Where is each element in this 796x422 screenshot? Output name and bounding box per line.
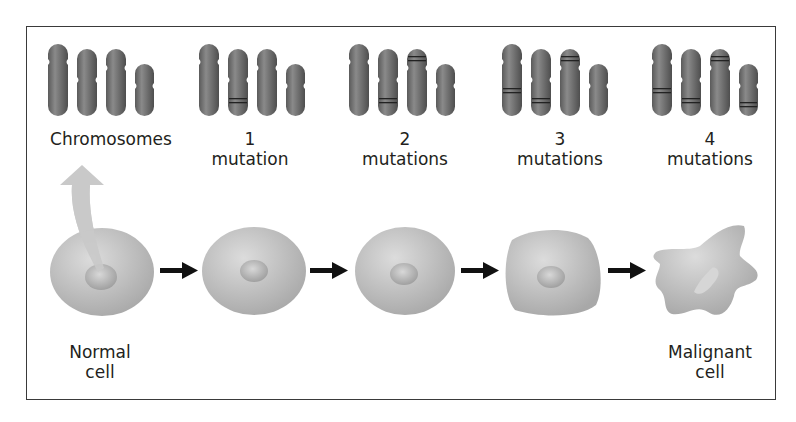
mutation-band (532, 102, 550, 103)
cell-stage-3 (506, 230, 601, 316)
chromosome (710, 49, 730, 116)
stage-label-chromosomes: Chromosomes (36, 129, 186, 149)
arrow-right-icon (461, 262, 499, 279)
chromosome-set (502, 44, 608, 116)
mutation-band (682, 102, 700, 103)
mutation-band (740, 106, 757, 107)
stage-label-4: 4mutations (650, 129, 770, 169)
mutation-band (561, 60, 579, 61)
chromosome (652, 44, 672, 116)
mutation-band (740, 102, 757, 103)
mutation-band (532, 98, 550, 99)
chromosome (48, 44, 68, 116)
mutation-band (408, 56, 426, 57)
mutation-band (379, 102, 397, 103)
chromosome (77, 49, 97, 116)
mutation-band (653, 88, 671, 89)
mutation-band (503, 88, 521, 89)
chromosome (560, 49, 580, 116)
chromosome (199, 44, 219, 116)
cell-stage-1 (202, 227, 306, 315)
chromosome (257, 49, 277, 116)
chromosome (228, 49, 248, 116)
cell-stage-2 (355, 227, 455, 315)
chromosome (589, 64, 608, 116)
chromosome (436, 64, 455, 116)
chromosome (502, 44, 522, 116)
malignant-cell-label: Malignantcell (650, 342, 770, 382)
mutation-band (408, 60, 426, 61)
mutation-band (379, 98, 397, 99)
chromosome-set (349, 44, 455, 116)
mutation-band (561, 56, 579, 57)
cell-normal (50, 185, 154, 316)
mutation-band (229, 102, 247, 103)
mutation-band (711, 60, 729, 61)
chromosome (681, 49, 701, 116)
mutation-band (229, 98, 247, 99)
mutation-band (503, 92, 521, 93)
chromosome-set (199, 44, 305, 116)
chromosome (106, 49, 126, 116)
chromosome (407, 49, 427, 116)
arrow-right-icon (310, 262, 348, 279)
normal-cell-label: Normalcell (50, 342, 150, 382)
chromosome (739, 64, 758, 116)
cell-malignant (653, 225, 757, 315)
chromosome-set (652, 44, 758, 116)
stage-label-1: 1mutation (200, 129, 300, 169)
arrow-right-icon (608, 262, 646, 279)
chromosome (531, 49, 551, 116)
chromosome-set (48, 44, 154, 116)
chromosome (349, 44, 369, 116)
mutation-band (682, 98, 700, 99)
stage-label-2: 2mutations (345, 129, 465, 169)
chromosome (286, 64, 305, 116)
arrow-right-icon (160, 262, 198, 279)
mutation-band (711, 56, 729, 57)
mutation-band (653, 92, 671, 93)
stage-label-3: 3mutations (500, 129, 620, 169)
chromosome (135, 64, 154, 116)
chromosome (378, 49, 398, 116)
